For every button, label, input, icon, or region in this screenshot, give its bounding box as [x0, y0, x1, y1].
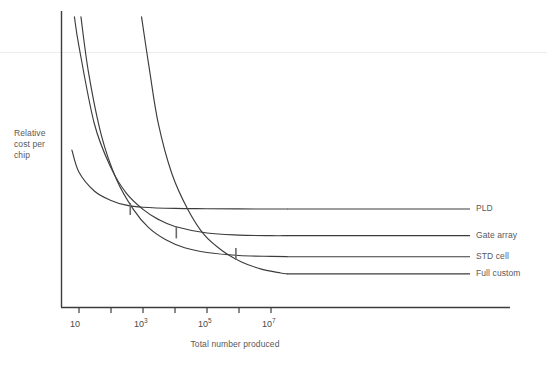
series-label-gate-array: Gate array	[476, 230, 517, 240]
series-leader-lines	[287, 209, 470, 274]
y-axis-label-line: chip	[14, 150, 46, 161]
y-axis-label: Relativecost perchip	[14, 128, 46, 161]
series-curves	[72, 17, 287, 274]
x-axis-tick-label: 105	[198, 319, 212, 329]
x-axis-tick-label: 10	[70, 319, 80, 329]
y-axis-label-line: cost per	[14, 139, 46, 150]
series-label-full-custom: Full custom	[476, 268, 521, 278]
y-axis-label-line: Relative	[14, 128, 46, 139]
x-axis-tick-label: 107	[262, 319, 276, 329]
x-axis-tick-label: 103	[134, 319, 148, 329]
plot-axes	[61, 11, 510, 308]
series-curve-pld	[72, 150, 287, 209]
series-curve-gate-array	[74, 17, 287, 236]
series-label-std-cell: STD cell	[476, 251, 509, 261]
cost-crossover-chart	[0, 0, 547, 367]
x-axis-label: Total number produced	[0, 339, 470, 350]
series-label-pld: PLD	[476, 203, 493, 213]
